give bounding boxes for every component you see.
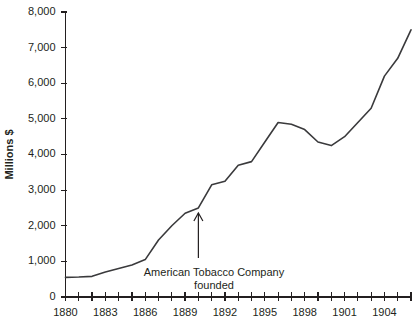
- x-axis-tick-label: 1892: [213, 306, 237, 318]
- x-axis-tick-label: 1904: [372, 306, 396, 318]
- x-axis-tick-label: 1880: [53, 306, 77, 318]
- y-axis-tick-label: 5,000: [28, 112, 56, 124]
- y-axis-tick-label: 8,000: [28, 5, 56, 17]
- y-axis-tick-label: 3,000: [28, 183, 56, 195]
- x-axis-tick-label: 1886: [133, 306, 157, 318]
- y-axis-tick-label: 1,000: [28, 254, 56, 266]
- y-axis: 01,0002,0003,0004,0005,0006,0007,0008,00…: [28, 5, 67, 302]
- annotation-label-line2: founded: [194, 279, 234, 291]
- y-axis-tick-label: 6,000: [28, 76, 56, 88]
- y-axis-tick-label: 7,000: [28, 41, 56, 53]
- x-axis-tick-label: 1883: [93, 306, 117, 318]
- y-axis-tick-label: 2,000: [28, 219, 56, 231]
- x-axis-tick-label: 1895: [253, 306, 277, 318]
- chart-container: 01,0002,0003,0004,0005,0006,0007,0008,00…: [0, 0, 420, 334]
- y-axis-tick-label: 0: [49, 290, 55, 302]
- x-axis: 188018831886188918921895189819011904: [53, 292, 411, 318]
- x-axis-tick-label: 1889: [173, 306, 197, 318]
- y-axis-tick-label: 4,000: [28, 147, 56, 159]
- y-axis-title: Millions $: [3, 129, 15, 179]
- annotation-american-tobacco: American Tobacco Company founded: [144, 213, 285, 291]
- annotation-label-line1: American Tobacco Company: [144, 266, 285, 278]
- data-series-line: [66, 30, 412, 278]
- x-axis-tick-label: 1901: [332, 306, 356, 318]
- x-axis-tick-label: 1898: [292, 306, 316, 318]
- y-axis-tick-labels: 01,0002,0003,0004,0005,0006,0007,0008,00…: [28, 5, 56, 302]
- x-axis-tick-labels: 188018831886188918921895189819011904: [53, 306, 396, 318]
- line-chart: 01,0002,0003,0004,0005,0006,0007,0008,00…: [0, 0, 420, 334]
